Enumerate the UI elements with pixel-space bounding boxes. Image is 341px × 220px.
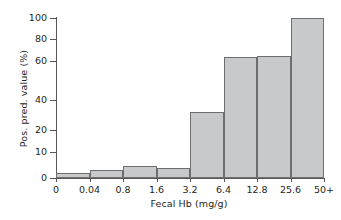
bar (291, 18, 325, 178)
y-axis-tick-label: 20 (35, 124, 47, 135)
x-axis-tick (56, 178, 57, 182)
y-axis-title: Pos. pred. value (%) (18, 19, 29, 179)
x-axis-tick (224, 178, 225, 182)
x-axis-tick-label: 0.8 (115, 184, 130, 195)
x-axis-tick-label: 50+ (314, 184, 334, 195)
x-axis-tick (257, 178, 258, 182)
plot-area (56, 18, 324, 178)
x-axis-tick (190, 178, 191, 182)
x-axis-tick (291, 178, 292, 182)
y-axis-tick-label: 0 (41, 172, 47, 183)
x-axis-tick-label: 1.6 (149, 184, 164, 195)
y-axis-tick-label: 100 (29, 12, 47, 23)
x-axis-tick (123, 178, 124, 182)
x-axis-tick-label: 6.4 (216, 184, 231, 195)
x-axis-tick-label: 12.8 (246, 184, 267, 195)
bar (224, 57, 258, 178)
y-axis-tick-label: 60 (35, 55, 47, 66)
x-axis-tick-label: 0 (53, 184, 59, 195)
y-axis-tick: 60 (50, 61, 56, 62)
y-axis-tick: 20 (50, 130, 56, 131)
y-axis-tick: 80 (50, 39, 56, 40)
y-axis-tick: 40 (50, 100, 56, 101)
bar (257, 56, 291, 179)
x-axis-tick-label: 3.2 (182, 184, 197, 195)
y-axis-tick-label: 40 (35, 94, 47, 105)
x-axis-title: Fecal Hb (mg/g) (55, 198, 323, 209)
y-axis-tick: 10 (50, 152, 56, 153)
bar (157, 168, 191, 178)
y-axis-tick: 100 (50, 18, 56, 19)
chart-figure: Pos. pred. value (%) 01020406080100 00.0… (0, 0, 341, 220)
x-axis-tick (157, 178, 158, 182)
x-axis-tick-label: 25.6 (280, 184, 301, 195)
bar (123, 166, 157, 178)
x-axis-tick (324, 178, 325, 182)
bar (90, 170, 124, 178)
x-axis-tick-label: 0.04 (79, 184, 100, 195)
y-axis-tick-label: 10 (35, 146, 47, 157)
y-axis-tick-label: 80 (35, 33, 47, 44)
bar (56, 173, 90, 178)
bar (190, 112, 224, 178)
x-axis-tick (90, 178, 91, 182)
